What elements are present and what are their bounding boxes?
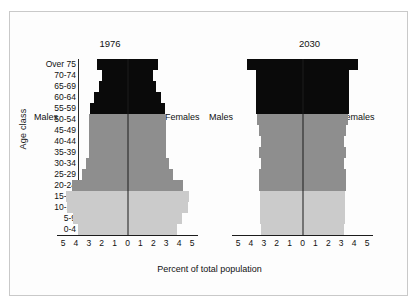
female-half: [128, 213, 193, 224]
x-tick-label: 4: [352, 238, 357, 248]
x-tick-label: 5: [61, 238, 66, 248]
bar-female: [303, 169, 347, 180]
female-half: [303, 103, 368, 114]
female-half: [303, 114, 368, 125]
bar-female: [303, 224, 344, 235]
female-half: [303, 147, 368, 158]
female-half: [303, 136, 368, 147]
female-half: [303, 92, 368, 103]
male-half: [238, 202, 303, 213]
male-half: [63, 81, 128, 92]
bar-female: [128, 147, 167, 158]
female-half: [303, 202, 368, 213]
bar-female: [128, 224, 177, 235]
female-half: [128, 180, 193, 191]
bar-male: [66, 191, 128, 202]
female-half: [128, 114, 193, 125]
male-half: [63, 224, 128, 235]
bar-male: [72, 180, 127, 191]
x-tick-label: 1: [112, 238, 117, 248]
female-half: [128, 147, 193, 158]
male-half: [238, 224, 303, 235]
x-tick-label: 4: [74, 238, 79, 248]
male-half: [238, 103, 303, 114]
x-tick-label: 2: [326, 238, 331, 248]
x-axis-title: Percent of total population: [10, 264, 409, 274]
bar-female: [303, 114, 348, 125]
bar-male: [78, 224, 127, 235]
bar-male: [247, 59, 302, 70]
bar-female: [303, 202, 346, 213]
male-half: [238, 191, 303, 202]
female-half: [303, 59, 368, 70]
bar-female: [128, 202, 189, 213]
bar-female: [303, 180, 347, 191]
bar-male: [99, 81, 127, 92]
bar-female: [128, 125, 167, 136]
male-half: [238, 125, 303, 136]
x-tick-label: 5: [190, 238, 195, 248]
bar-female: [128, 191, 190, 202]
male-half: [63, 147, 128, 158]
bar-female: [128, 136, 167, 147]
x-axis-line-2030: [232, 235, 373, 236]
males-label-1976: Males: [34, 112, 58, 122]
x-tick-label: 0: [300, 238, 305, 248]
male-half: [63, 70, 128, 81]
bar-male: [73, 213, 127, 224]
male-half: [238, 92, 303, 103]
male-half: [63, 136, 128, 147]
female-half: [128, 136, 193, 147]
x-axis-line-1976: [57, 235, 198, 236]
bar-female: [128, 81, 156, 92]
bar-male: [94, 92, 128, 103]
bar-male: [260, 191, 303, 202]
bar-female: [303, 125, 347, 136]
panel-title-2030: 2030: [210, 38, 409, 49]
female-half: [128, 224, 193, 235]
female-half: [128, 59, 193, 70]
female-half: [303, 169, 368, 180]
male-half: [63, 92, 128, 103]
male-half: [63, 213, 128, 224]
bar-male: [256, 81, 302, 92]
center-axis-line-1976: [127, 59, 128, 235]
bar-male: [89, 147, 128, 158]
bar-female: [128, 92, 162, 103]
x-tick-label: 4: [249, 238, 254, 248]
male-half: [238, 158, 303, 169]
bar-male: [259, 147, 303, 158]
bar-female: [303, 213, 346, 224]
bar-male: [260, 213, 303, 224]
males-label-2030: Males: [209, 112, 233, 122]
x-tick-label: 3: [261, 238, 266, 248]
female-half: [303, 180, 368, 191]
bar-male: [89, 136, 128, 147]
female-half: [303, 224, 368, 235]
x-tick-label: 3: [86, 238, 91, 248]
bar-male: [102, 70, 128, 81]
x-axis-ticks-2030: 54321012345: [238, 238, 367, 250]
male-half: [238, 180, 303, 191]
bar-male: [260, 202, 303, 213]
bar-female: [303, 103, 349, 114]
x-tick-label: 0: [125, 238, 130, 248]
female-half: [128, 103, 193, 114]
male-half: [238, 169, 303, 180]
panel-title-1976: 1976: [10, 38, 210, 49]
bar-male: [90, 103, 127, 114]
pyramid-plot-1976: [63, 59, 192, 235]
male-half: [63, 202, 128, 213]
bar-female: [128, 180, 183, 191]
female-half: [303, 213, 368, 224]
male-half: [238, 213, 303, 224]
bar-male: [82, 169, 127, 180]
female-half: [303, 158, 368, 169]
male-half: [238, 114, 303, 125]
female-half: [128, 81, 193, 92]
x-tick-label: 2: [274, 238, 279, 248]
x-axis-ticks-1976: 54321012345: [63, 238, 192, 250]
figure-frame: Age class Over 7570-7465-6960-6455-5950-…: [9, 11, 408, 296]
bar-female: [128, 114, 167, 125]
bar-female: [303, 70, 349, 81]
